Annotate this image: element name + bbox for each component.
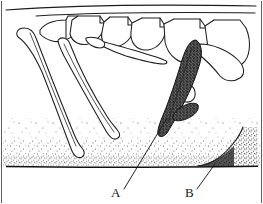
dorsal-body-outline: [6, 5, 256, 16]
label-a: A: [111, 185, 121, 200]
label-b: B: [185, 185, 194, 200]
ground-baseline: [6, 166, 258, 167]
leader-line-b: [197, 164, 215, 189]
figure-root: A B: [0, 0, 263, 204]
skeletal-line-drawing: A B: [0, 0, 263, 204]
